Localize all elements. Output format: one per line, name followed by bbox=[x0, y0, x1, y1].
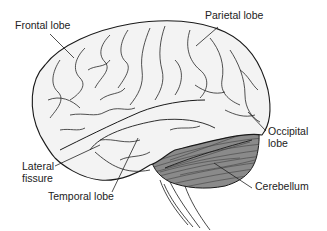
label-frontal-lobe: Frontal lobe bbox=[15, 20, 70, 32]
label-occipital-lobe: Occipital lobe bbox=[268, 126, 308, 149]
label-lateral-line1: Lateral bbox=[22, 161, 54, 173]
label-lateral-line2: fissure bbox=[22, 173, 54, 185]
label-temporal-lobe: Temporal lobe bbox=[48, 191, 114, 203]
label-occipital-line1: Occipital bbox=[268, 126, 308, 138]
label-lateral-fissure: Lateral fissure bbox=[22, 161, 54, 184]
label-occipital-line2: lobe bbox=[268, 138, 308, 150]
label-parietal-lobe: Parietal lobe bbox=[205, 10, 263, 22]
label-cerebellum: Cerebellum bbox=[255, 181, 309, 193]
